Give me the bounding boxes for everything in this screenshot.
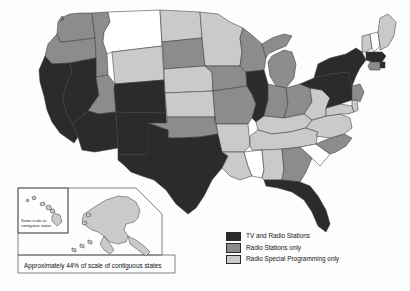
hawaii-inset-group: Same scale as contiguous states [18, 188, 68, 233]
state-CT[interactable] [368, 62, 380, 70]
legend-label-radio-only: Radio Stations only [246, 245, 301, 251]
alaska-inset-group: Approximately 44% of scale of contiguous… [18, 188, 175, 273]
legend-swatch-radio-special [226, 255, 241, 265]
contiguous-states-group [39, 10, 396, 232]
state-SD[interactable] [162, 38, 205, 69]
state-RI[interactable] [380, 62, 385, 68]
state-WY[interactable] [112, 46, 164, 84]
alaska-landmass[interactable] [82, 196, 150, 256]
state-KS[interactable] [165, 91, 215, 117]
state-AL[interactable] [262, 149, 284, 180]
state-WI[interactable] [240, 28, 266, 72]
legend-item-tv-and-radio[interactable]: TV and Radio Stations [226, 232, 396, 241]
legend-item-radio-special[interactable]: Radio Special Programming only [226, 255, 396, 264]
state-ND[interactable] [160, 10, 202, 42]
state-NE[interactable] [164, 66, 213, 93]
legend-swatch-tv-and-radio [226, 232, 241, 242]
state-ME[interactable] [378, 14, 396, 50]
state-WA[interactable] [57, 13, 95, 42]
map-legend: TV and Radio Stations Radio Stations onl… [226, 232, 396, 267]
legend-label-radio-special: Radio Special Programming only [246, 256, 339, 262]
state-MN[interactable] [200, 12, 243, 66]
state-NJ[interactable] [352, 84, 364, 102]
legend-swatch-radio-only [226, 243, 241, 253]
state-MA[interactable] [366, 52, 386, 62]
legend-label-tv-and-radio: TV and Radio Stations [246, 233, 310, 239]
state-CO[interactable] [114, 80, 166, 113]
us-broadcast-coverage-figure: Same scale as contiguous states Approxim… [0, 0, 410, 291]
alaska-scale-caption: Approximately 44% of scale of contiguous… [24, 262, 161, 270]
legend-item-radio-only[interactable]: Radio Stations only [226, 244, 396, 253]
hawaii-scale-note-line2: contiguous states [21, 223, 51, 228]
state-MO[interactable] [213, 86, 256, 124]
state-FL[interactable] [264, 180, 330, 232]
